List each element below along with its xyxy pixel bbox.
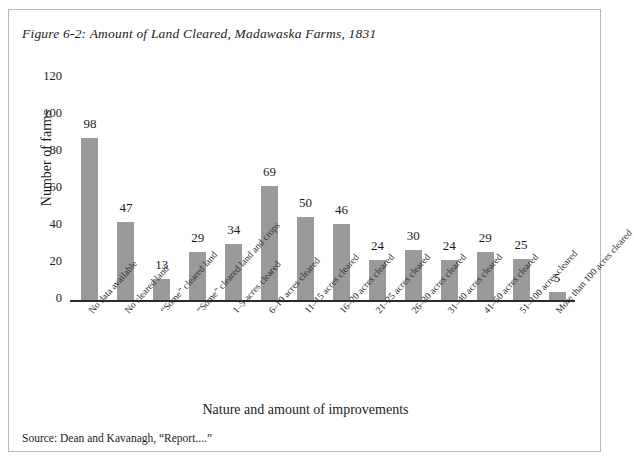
bar-value-label: 34: [214, 222, 254, 238]
bar-value-label: 29: [178, 230, 218, 246]
bar-value-label: 46: [321, 202, 361, 218]
bar-value-label: 24: [429, 238, 469, 254]
bar-value-label: 30: [393, 228, 433, 244]
bar-value-label: 24: [357, 238, 397, 254]
bar-value-label: 98: [70, 116, 110, 132]
bar-value-label: 50: [286, 195, 326, 211]
x-axis-title: Nature and amount of improvements: [0, 402, 611, 418]
bar-value-label: 29: [465, 230, 505, 246]
bars-layer: 984713293469504624302429255: [0, 0, 611, 300]
bar-value-label: 69: [250, 164, 290, 180]
source-note: Source: Dean and Kavanagh, “Report....”: [22, 432, 212, 444]
bar-value-label: 25: [501, 237, 541, 253]
bar-value-label: 47: [106, 200, 146, 216]
bar: [81, 138, 98, 300]
